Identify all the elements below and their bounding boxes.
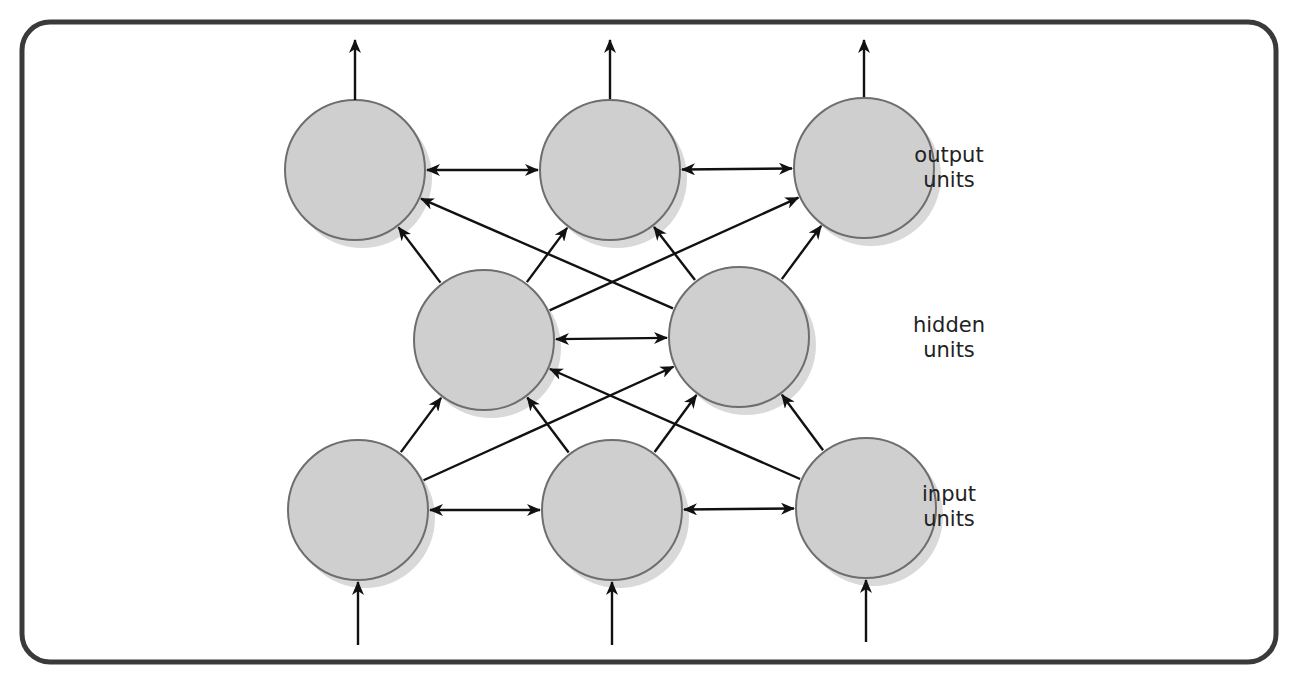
connection-in2-hid1: [527, 398, 568, 453]
neural-network-diagram: [0, 0, 1296, 680]
hidden-units-label-line2: units: [889, 338, 1009, 363]
input-unit-in1: [288, 440, 428, 580]
connection-hid2-out2: [654, 227, 695, 280]
connection-hid2-out3: [782, 226, 821, 279]
hidden-units-label-line1: hidden: [889, 313, 1009, 338]
connection-hid1-out2: [527, 228, 567, 282]
output-unit-out2: [540, 100, 680, 240]
input-units-label-line1: input: [889, 482, 1009, 507]
output-unit-out1: [285, 100, 425, 240]
input-units-label: input units: [889, 482, 1009, 532]
hidden-unit-hid1: [414, 270, 554, 410]
hidden-units-label: hidden units: [889, 313, 1009, 363]
input-unit-in2: [542, 440, 682, 580]
output-units-label-line2: units: [889, 168, 1009, 193]
input-units-label-line2: units: [889, 507, 1009, 532]
connection-hid1-out1: [399, 227, 441, 282]
connection-hid1-hid2: [556, 338, 667, 339]
connection-in3-hid2: [782, 395, 823, 450]
output-units-label-line1: output: [889, 143, 1009, 168]
hidden-unit-hid2: [669, 267, 809, 407]
connection-in1-hid1: [401, 398, 441, 452]
connection-out2-out3: [682, 169, 792, 170]
connection-in2-in3: [684, 509, 794, 510]
output-units-label: output units: [889, 143, 1009, 193]
